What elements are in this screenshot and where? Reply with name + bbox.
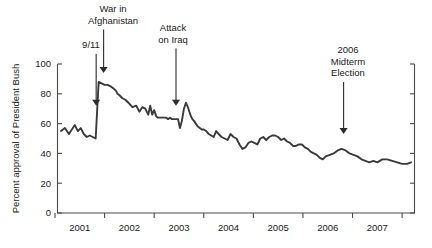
x-tick-label: 2001: [69, 222, 90, 233]
annotation-label: Election: [331, 67, 365, 78]
x-tick-label: 2004: [218, 222, 239, 233]
annotation-attack-on-iraq: Attackon Iraq: [158, 22, 188, 106]
data-series: [61, 82, 411, 164]
y-tick-label: 100: [35, 58, 51, 69]
annotation-label: on Iraq: [158, 34, 188, 45]
annotation-label: Attack: [160, 22, 187, 33]
annotation-war-in-afghanistan: War inAfghanistan: [88, 3, 138, 73]
x-axis-ticks: 2001200220032004200520062007: [55, 213, 402, 233]
x-tick-label: 2007: [367, 222, 388, 233]
x-tick-label: 2005: [268, 222, 289, 233]
y-tick-label: 0: [46, 207, 51, 218]
y-tick-label: 80: [40, 88, 51, 99]
y-tick-label: 60: [40, 118, 51, 129]
approval-rating-chart: 020406080100 200120022003200420052006200…: [0, 0, 432, 248]
approval-line: [61, 82, 411, 164]
annotation-arrow-head-icon: [172, 100, 180, 106]
annotation-label: Midterm: [331, 56, 365, 67]
annotation-label: Afghanistan: [88, 15, 138, 26]
chart-canvas: 020406080100 200120022003200420052006200…: [0, 0, 432, 248]
y-axis-title: Percent approval of President Bush: [10, 64, 21, 213]
y-tick-label: 40: [40, 148, 51, 159]
annotation-arrow-head-icon: [340, 128, 348, 134]
annotation-label: 9/11: [82, 39, 100, 50]
annotation-label: 2006: [337, 44, 358, 55]
annotations: 9/11War inAfghanistanAttackon Iraq2006Mi…: [82, 3, 365, 134]
x-tick-label: 2003: [168, 222, 189, 233]
y-tick-label: 20: [40, 178, 51, 189]
annotation-midterm-election: 2006MidtermElection: [331, 44, 365, 134]
annotation-arrow-head-icon: [92, 100, 100, 106]
x-tick-label: 2002: [119, 222, 140, 233]
x-tick-label: 2006: [317, 222, 338, 233]
annotation-arrow-head-icon: [100, 67, 108, 73]
annotation-label: War in: [99, 3, 126, 14]
